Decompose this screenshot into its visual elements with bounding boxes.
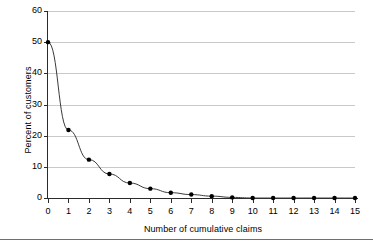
series-line [48,42,355,198]
y-axis-title: Percent of customers [23,20,33,200]
data-point-7 [189,192,193,196]
data-point-3 [107,172,111,176]
x-tick-label-9: 9 [222,206,242,216]
data-point-13 [312,196,316,200]
data-point-2 [87,157,91,161]
x-tick-label-13: 13 [304,206,324,216]
data-point-6 [169,191,173,195]
data-point-4 [128,181,132,185]
y-tick-label-50: 50 [32,36,42,46]
data-series [48,11,358,200]
data-point-5 [148,186,152,190]
x-tick-label-2: 2 [79,206,99,216]
x-tick-label-6: 6 [161,206,181,216]
y-tick-label-60: 60 [32,5,42,15]
x-tick-label-11: 11 [263,206,283,216]
x-tick-label-5: 5 [140,206,160,216]
y-tick-label-0: 0 [37,192,42,202]
y-tick-label-10: 10 [32,161,42,171]
footer-divider [0,239,373,240]
x-tick-label-0: 0 [38,206,58,216]
plot-area: 01020304050600123456789101112131415 [48,11,358,198]
x-tick-label-1: 1 [58,206,78,216]
x-tick-label-15: 15 [345,206,365,216]
data-point-15 [353,196,357,200]
data-point-0 [46,40,50,44]
x-tick-label-12: 12 [284,206,304,216]
x-tick-label-14: 14 [325,206,345,216]
data-point-10 [250,196,254,200]
data-point-8 [210,194,214,198]
data-point-11 [271,196,275,200]
x-tick-label-8: 8 [202,206,222,216]
data-point-9 [230,195,234,199]
data-point-1 [66,128,70,132]
data-point-12 [291,196,295,200]
data-point-14 [332,196,336,200]
y-tick-label-30: 30 [32,99,42,109]
y-tick-label-40: 40 [32,67,42,77]
chart-figure: Percent of customers 0102030405060012345… [0,0,373,245]
y-tick-label-20: 20 [32,130,42,140]
x-tick-label-4: 4 [120,206,140,216]
x-tick-label-10: 10 [243,206,263,216]
x-tick-label-3: 3 [99,206,119,216]
x-axis-title: Number of cumulative claims [48,224,358,234]
x-tick-label-7: 7 [181,206,201,216]
